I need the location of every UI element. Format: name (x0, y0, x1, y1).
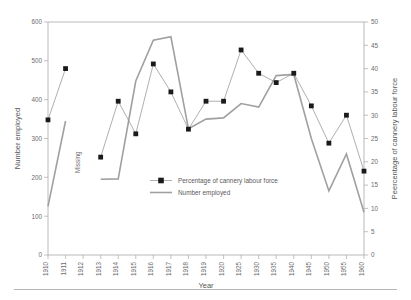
data-point-marker (309, 103, 314, 108)
x-tick-label: 1916 (147, 262, 154, 277)
right-tick-label-20: 20 (371, 158, 379, 165)
x-tick-label: 1911 (60, 262, 67, 276)
x-tick-label: 1914 (112, 262, 119, 277)
data-point-marker (63, 66, 68, 71)
x-tick-label: 1919 (200, 262, 207, 277)
data-point-marker (362, 169, 367, 174)
x-tick-label: 1955 (340, 262, 347, 277)
data-point-marker (133, 131, 138, 136)
dual-axis-line-chart: 0 100 200 300 400 500 600 Number employe… (0, 0, 411, 300)
x-tick-label: 1913 (95, 262, 102, 277)
series-number-employed (48, 37, 364, 213)
right-tick-label-5: 5 (371, 228, 375, 235)
right-tick-label-10: 10 (371, 205, 379, 212)
plot-frame (48, 22, 364, 255)
left-tick-label-0: 0 (38, 251, 42, 258)
chart-legend: Percentage of cannery labour force Numbe… (150, 177, 278, 197)
right-tick-label-40: 40 (371, 65, 379, 72)
right-tick-label-25: 25 (371, 135, 379, 142)
left-tick-label-600: 600 (31, 18, 42, 25)
left-axis-ticks (44, 22, 48, 255)
left-tick-label-400: 400 (31, 96, 42, 103)
x-axis-labels: 1910 1911 1912 1913 1914 1915 1916 1917 … (42, 262, 365, 277)
data-point-marker (46, 117, 51, 122)
x-tick-label: 1935 (270, 262, 277, 277)
right-tick-label-0: 0 (371, 251, 375, 258)
x-tick-label: 1912 (77, 262, 84, 277)
x-tick-label: 1940 (288, 262, 295, 277)
x-tick-label: 1945 (305, 262, 312, 277)
x-tick-label: 1925 (235, 262, 242, 277)
x-tick-label: 1918 (182, 262, 189, 277)
series-line-percentage (48, 69, 66, 120)
left-axis: 0 100 200 300 400 500 600 Number employe… (13, 18, 48, 258)
data-point-marker (344, 113, 349, 118)
data-point-marker (274, 80, 279, 85)
right-tick-label-30: 30 (371, 112, 379, 119)
right-axis: 0 5 10 15 20 25 30 35 40 45 50 Peercenta… (364, 18, 399, 258)
left-axis-title: Number employed (13, 108, 22, 169)
data-point-marker (326, 141, 331, 146)
series-line-number-employed (48, 121, 66, 206)
data-point-marker (168, 90, 173, 95)
legend-label-pct: Percentage of cannery labour force (178, 177, 278, 185)
data-point-marker (98, 155, 103, 160)
data-point-marker (221, 99, 226, 104)
left-tick-label-100: 100 (31, 213, 42, 220)
data-point-marker (186, 127, 191, 132)
left-tick-label-500: 500 (31, 57, 42, 64)
legend-label-num: Number employed (178, 189, 231, 197)
right-tick-label-35: 35 (371, 88, 379, 95)
x-tick-label: 1930 (253, 262, 260, 277)
x-tick-label: 1960 (358, 262, 365, 277)
x-tick-label: 1915 (130, 262, 137, 277)
right-tick-label-45: 45 (371, 42, 379, 49)
right-tick-label-50: 50 (371, 18, 379, 25)
chart-figure: 0 100 200 300 400 500 600 Number employe… (0, 0, 411, 300)
data-point-marker (151, 62, 156, 67)
right-axis-ticks (364, 22, 368, 255)
right-axis-title: Peercentage of cannery labour force (390, 78, 399, 199)
x-tick-label: 1950 (323, 262, 330, 277)
data-point-marker (116, 99, 121, 104)
series-percentage-markers (46, 48, 367, 174)
left-tick-label-300: 300 (31, 135, 42, 142)
data-point-marker (204, 99, 209, 104)
series-line-number-employed (101, 37, 364, 213)
x-tick-label: 1917 (165, 262, 172, 277)
data-point-marker (291, 71, 296, 76)
right-tick-label-15: 15 (371, 181, 379, 188)
legend-marker-square (158, 178, 164, 184)
data-point-marker (256, 71, 261, 76)
x-tick-label: 1910 (42, 262, 49, 277)
x-tick-label: 1920 (218, 262, 225, 277)
x-axis-title: Year (198, 281, 214, 290)
left-tick-label-200: 200 (31, 174, 42, 181)
missing-annotation: Missing (74, 151, 82, 173)
x-axis-ticks (48, 255, 364, 259)
data-point-marker (239, 48, 244, 53)
